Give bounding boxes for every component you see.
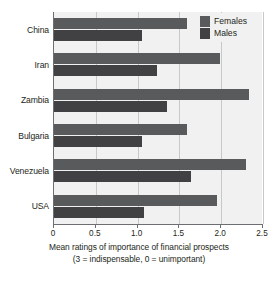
category-label-zambia: Zambia: [1, 95, 49, 105]
legend-swatch-females-icon: [200, 16, 210, 27]
plot-area: [53, 12, 262, 224]
gridline: [263, 12, 264, 224]
legend-item-males: Males: [200, 28, 247, 39]
x-axis-label-line-1: Mean ratings of importance of financial …: [0, 241, 278, 253]
bar-group: [54, 83, 262, 118]
x-axis-tick-label: 1.0: [131, 228, 142, 239]
bar-group: [54, 153, 262, 188]
x-axis-tick-label: 0.5: [89, 228, 100, 239]
category-label-china: China: [1, 25, 49, 35]
bar-iran-males: [54, 65, 157, 76]
x-axis-tick-label: 0: [51, 228, 56, 239]
category-label-iran: Iran: [1, 60, 49, 70]
x-axis-tick-label: 1.5: [173, 228, 184, 239]
bar-iran-females: [54, 53, 220, 64]
bar-group: [54, 118, 262, 153]
legend-item-females: Females: [200, 16, 247, 27]
legend-label-males: Males: [214, 28, 237, 39]
bar-usa-females: [54, 195, 217, 206]
x-axis-tick-label: 2.5: [256, 228, 267, 239]
x-axis-tick-labels: 00.51.01.52.02.5: [0, 228, 278, 242]
bar-group: [54, 189, 262, 224]
bar-china-males: [54, 30, 142, 41]
x-axis-label-line-2: (3 = indispensable, 0 = unimportant): [0, 253, 278, 265]
bar-venezuela-males: [54, 171, 191, 182]
bar-zambia-females: [54, 89, 249, 100]
bar-group: [54, 47, 262, 82]
legend-swatch-males-icon: [200, 28, 210, 39]
bar-bulgaria-females: [54, 124, 187, 135]
bar-usa-males: [54, 207, 144, 218]
category-label-usa: USA: [1, 201, 49, 211]
bar-china-females: [54, 18, 187, 29]
category-label-bulgaria: Bulgaria: [1, 131, 49, 141]
bar-bulgaria-males: [54, 136, 142, 147]
bar-zambia-males: [54, 101, 167, 112]
legend-label-females: Females: [214, 16, 247, 27]
x-axis-tick-label: 2.0: [214, 228, 225, 239]
category-labels: ChinaIranZambiaBulgariaVenezuelaUSA: [0, 12, 49, 224]
x-axis-label: Mean ratings of importance of financial …: [0, 241, 278, 265]
x-axis-line: [53, 224, 262, 225]
bar-venezuela-females: [54, 159, 246, 170]
bar-chart: ChinaIranZambiaBulgariaVenezuelaUSA 00.5…: [0, 0, 278, 284]
legend: Females Males: [196, 13, 250, 42]
category-label-venezuela: Venezuela: [1, 166, 49, 176]
